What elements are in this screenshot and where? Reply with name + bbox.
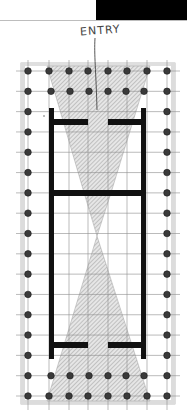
column: [25, 251, 32, 258]
column: [124, 393, 131, 400]
column: [25, 108, 32, 115]
column: [25, 230, 32, 237]
column: [164, 251, 171, 258]
front-crosswall-left: [54, 119, 88, 125]
column: [164, 291, 171, 298]
cella-left-wall: [49, 108, 54, 359]
column: [124, 68, 131, 75]
column: [25, 129, 32, 136]
column: [25, 352, 32, 359]
column: [66, 393, 73, 400]
column: [85, 393, 92, 400]
column: [164, 352, 171, 359]
column: [164, 210, 171, 217]
column: [164, 393, 171, 400]
column: [25, 190, 32, 197]
column: [25, 291, 32, 298]
column: [105, 68, 112, 75]
column: [164, 332, 171, 339]
middle-crosswall: [54, 190, 141, 196]
column: [86, 372, 93, 379]
column: [67, 88, 74, 95]
column: [25, 210, 32, 217]
column: [164, 372, 171, 379]
column: [105, 393, 112, 400]
column: [141, 88, 148, 95]
column: [25, 169, 32, 176]
rear-crosswall-left: [54, 342, 88, 348]
column: [164, 108, 171, 115]
column: [164, 190, 171, 197]
column: [86, 88, 93, 95]
column: [164, 129, 171, 136]
column: [141, 372, 148, 379]
column: [25, 149, 32, 156]
column: [25, 372, 32, 379]
column: [123, 88, 130, 95]
column: [105, 372, 112, 379]
temple-floor-plan: [0, 0, 187, 417]
column: [66, 68, 73, 75]
stray-dot: [43, 115, 45, 117]
column: [25, 68, 32, 75]
column: [164, 149, 171, 156]
column: [25, 88, 32, 95]
column: [25, 271, 32, 278]
column: [25, 332, 32, 339]
column: [164, 230, 171, 237]
column: [25, 393, 32, 400]
column: [144, 393, 151, 400]
column: [123, 372, 130, 379]
front-crosswall-right: [108, 119, 141, 125]
column: [164, 271, 171, 278]
column: [164, 311, 171, 318]
column: [164, 68, 171, 75]
column: [105, 88, 112, 95]
rear-crosswall-right: [108, 342, 141, 348]
column: [85, 68, 92, 75]
cella-right-wall: [141, 108, 146, 359]
column: [48, 88, 55, 95]
column: [46, 393, 53, 400]
column: [144, 68, 151, 75]
column: [25, 311, 32, 318]
entry-sightline-cone-bottom: [47, 236, 150, 401]
column: [48, 372, 55, 379]
column: [67, 372, 74, 379]
column: [46, 68, 53, 75]
column: [164, 88, 171, 95]
column: [164, 169, 171, 176]
